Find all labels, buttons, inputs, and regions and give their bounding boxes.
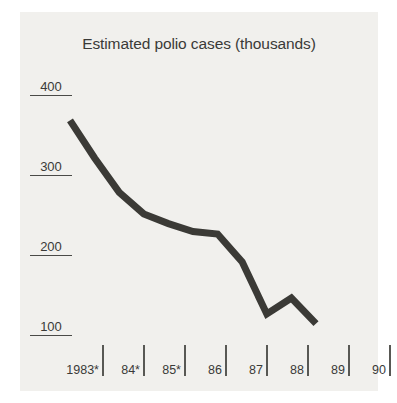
x-axis-tick-label-87: 87 <box>249 363 263 377</box>
x-axis-tick-label-84: 84* <box>121 363 140 377</box>
x-axis-tick-label-90: 90 <box>372 363 386 377</box>
x-axis-tick-label-1983: 1983* <box>66 363 99 377</box>
plot-area: 400 300 200 100 1983* 84* <box>20 12 378 391</box>
x-axis-tick-87: 87 <box>227 343 268 377</box>
x-axis-tick-85: 85* <box>145 343 186 377</box>
x-axis-tick-88: 88 <box>268 343 309 377</box>
x-axis-tick-84: 84* <box>104 343 145 377</box>
x-axis-tick-90: 90 <box>350 343 391 377</box>
x-axis-tick-label-86: 86 <box>208 363 222 377</box>
x-axis-tick-label-85: 85* <box>162 363 181 377</box>
x-axis-tick-label-89: 89 <box>331 363 345 377</box>
x-axis-tick-1983: 1983* <box>48 343 104 377</box>
x-axis-tick-86: 86 <box>186 343 227 377</box>
data-series-line <box>20 12 378 391</box>
chart-panel: Estimated polio cases (thousands) 400 30… <box>20 12 378 391</box>
x-axis-tick-89: 89 <box>309 343 350 377</box>
x-axis-tick-label-88: 88 <box>290 363 304 377</box>
x-axis-tick-91: 91 <box>391 343 397 377</box>
chart-figure: Estimated polio cases (thousands) 400 30… <box>0 0 397 403</box>
